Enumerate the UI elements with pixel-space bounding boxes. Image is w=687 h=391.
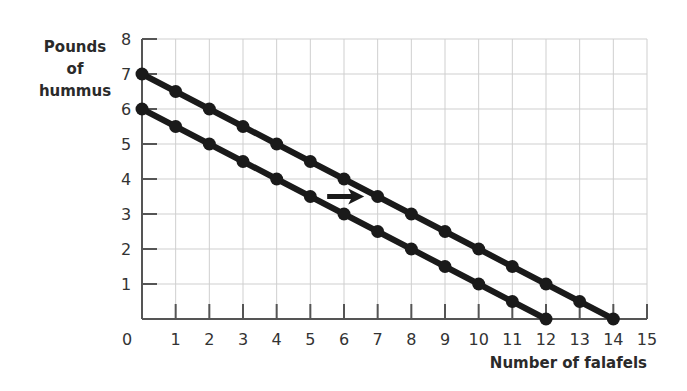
x-tick-label: 5 [305, 330, 315, 349]
x-axis-title: Number of falafels [490, 354, 647, 372]
data-point [169, 120, 182, 133]
data-point [203, 138, 216, 151]
data-point [472, 278, 485, 291]
data-point [169, 85, 182, 98]
x-tick-label: 3 [238, 330, 248, 349]
data-point [506, 295, 519, 308]
data-point [540, 313, 553, 326]
data-point [338, 208, 351, 221]
x-tick-label: 0 [122, 330, 132, 349]
data-point [304, 155, 317, 168]
y-axis-title-line-1: Pounds [44, 38, 106, 56]
data-point [136, 68, 149, 81]
x-tick-label: 11 [502, 330, 522, 349]
data-point [472, 243, 485, 256]
data-point [405, 243, 418, 256]
x-tick-label: 2 [204, 330, 214, 349]
y-tick-label: 4 [121, 170, 131, 189]
data-point [405, 208, 418, 221]
y-axis-title-line-3: hummus [39, 82, 111, 100]
x-tick-label: 7 [373, 330, 383, 349]
data-point [270, 173, 283, 186]
data-point [136, 103, 149, 116]
data-point [304, 190, 317, 203]
y-axis-title-line-2: of [67, 60, 84, 78]
y-tick-label: 1 [121, 275, 131, 294]
data-point [270, 138, 283, 151]
x-tick-label: 6 [339, 330, 349, 349]
data-point [237, 120, 250, 133]
annotations [327, 189, 364, 205]
data-point [371, 225, 384, 238]
x-tick-label: 14 [603, 330, 623, 349]
data-point [237, 155, 250, 168]
data-point [439, 260, 452, 273]
x-tick-label: 8 [406, 330, 416, 349]
data-point [338, 173, 351, 186]
y-tick-label: 2 [121, 240, 131, 259]
x-tick-label: 13 [569, 330, 589, 349]
data-point [506, 260, 519, 273]
data-point [573, 295, 586, 308]
data-point [439, 225, 452, 238]
x-tick-label: 4 [272, 330, 282, 349]
chart: 012345678910111213141512345678 Pounds of… [0, 0, 687, 391]
y-tick-label: 5 [121, 135, 131, 154]
data-point [607, 313, 620, 326]
grid [142, 39, 647, 319]
x-tick-label: 1 [171, 330, 181, 349]
x-tick-label: 9 [440, 330, 450, 349]
y-tick-label: 3 [121, 205, 131, 224]
data-point [540, 278, 553, 291]
y-tick-label: 6 [121, 100, 131, 119]
x-tick-label: 10 [468, 330, 488, 349]
data-point [371, 190, 384, 203]
y-tick-label: 8 [121, 30, 131, 49]
data-point [203, 103, 216, 116]
shift-arrow [327, 189, 364, 205]
x-tick-label: 15 [637, 330, 657, 349]
x-tick-label: 12 [536, 330, 556, 349]
y-tick-label: 7 [121, 65, 131, 84]
